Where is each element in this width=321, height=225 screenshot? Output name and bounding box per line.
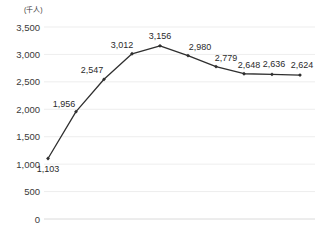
y-axis-tick-label: 2,500 xyxy=(16,76,40,87)
data-point-label: 2,624 xyxy=(291,60,314,70)
data-point-label: 1,956 xyxy=(53,99,76,109)
data-point-labels: 1,1031,9562,5473,0123,1562,9802,7792,648… xyxy=(37,31,314,175)
data-point-label: 3,156 xyxy=(149,31,172,41)
y-axis-tick-label: 3,000 xyxy=(16,49,40,60)
data-point-label: 2,779 xyxy=(215,53,238,63)
y-axis-unit-label: (千人) xyxy=(24,5,43,14)
data-point-marker xyxy=(298,73,302,77)
data-point-label: 2,980 xyxy=(189,42,212,52)
data-point-marker xyxy=(242,72,246,76)
data-point-label: 2,547 xyxy=(81,65,104,75)
y-axis-tick-label: 500 xyxy=(24,186,40,197)
data-point-label: 2,636 xyxy=(263,59,286,69)
y-axis-tick-labels: 3,5003,0002,5002,0001,5001,0005000 xyxy=(16,22,40,225)
data-point-marker xyxy=(158,44,162,48)
data-point-marker xyxy=(214,65,218,69)
y-axis-tick-label: 2,000 xyxy=(16,104,40,115)
line-chart: 3,5003,0002,5002,0001,5001,0005000 (千人) … xyxy=(0,0,321,225)
data-point-label: 1,103 xyxy=(37,164,60,174)
chart-canvas: 3,5003,0002,5002,0001,5001,0005000 (千人) … xyxy=(0,0,321,225)
gridlines xyxy=(44,27,315,219)
y-axis-tick-label: 1,500 xyxy=(16,131,40,142)
y-axis-tick-label: 0 xyxy=(35,214,40,225)
data-point-label: 3,012 xyxy=(111,40,134,50)
data-point-label: 2,648 xyxy=(238,60,261,70)
y-axis-tick-label: 3,500 xyxy=(16,22,40,33)
data-point-marker xyxy=(270,72,274,76)
